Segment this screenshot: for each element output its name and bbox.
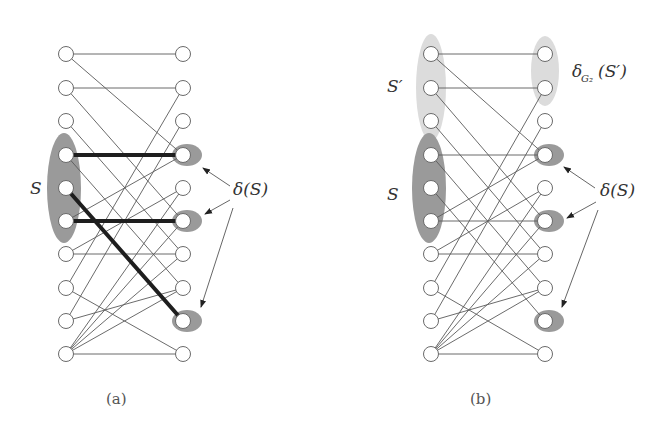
right-vertex	[176, 281, 191, 296]
matching-edge	[66, 188, 183, 321]
right-vertex	[538, 114, 553, 129]
bipartite-graph-figure: S δ(S) (a) S′ δ G₂ (S′) S δ(S) (b)	[0, 0, 663, 444]
left-vertex	[424, 148, 439, 163]
boundary-arrows-a	[201, 168, 233, 307]
set-s-prime-label: S′	[387, 76, 403, 96]
left-vertex	[424, 81, 439, 96]
graph-edge	[431, 54, 545, 155]
graph-edge	[431, 188, 545, 321]
right-vertex	[176, 148, 191, 163]
panel-a-graph	[47, 47, 202, 362]
graph-edge	[66, 54, 183, 155]
left-vertex	[59, 114, 74, 129]
left-vertex	[424, 181, 439, 196]
boundary-label-b: δ(S)	[600, 180, 635, 200]
boundary-arrows-b	[562, 167, 598, 307]
graph-edge	[66, 88, 183, 288]
left-vertex	[59, 181, 74, 196]
right-vertex	[538, 347, 553, 362]
left-vertex	[59, 247, 74, 262]
right-vertex	[538, 314, 553, 329]
right-vertex	[176, 47, 191, 62]
right-vertex	[176, 347, 191, 362]
panel-b-graph	[412, 34, 564, 362]
right-vertex	[538, 47, 553, 62]
left-vertex	[59, 347, 74, 362]
right-vertex	[538, 247, 553, 262]
left-vertex	[424, 247, 439, 262]
right-vertex	[176, 247, 191, 262]
left-vertex	[424, 314, 439, 329]
right-vertex	[538, 281, 553, 296]
left-vertex	[424, 47, 439, 62]
left-vertex	[59, 314, 74, 329]
caption-b: (b)	[470, 390, 491, 408]
graph-edge	[431, 88, 545, 288]
right-vertex	[176, 114, 191, 129]
set-s-label-b: S	[387, 184, 399, 204]
caption-a: (a)	[106, 390, 127, 408]
graph-edge	[431, 221, 545, 354]
delta-g2-s-prime-label: δ G₂ (S′)	[572, 61, 627, 84]
right-vertex	[538, 214, 553, 229]
graph-edge	[66, 221, 183, 354]
svg-text:(S′): (S′)	[598, 61, 627, 81]
graph-edge	[66, 188, 183, 354]
left-vertex	[424, 114, 439, 129]
left-vertex	[424, 281, 439, 296]
right-vertex	[176, 81, 191, 96]
graph-edge	[431, 188, 545, 354]
graph-edge	[431, 88, 545, 221]
graph-edge	[431, 254, 545, 354]
right-vertex	[538, 148, 553, 163]
left-vertex	[59, 47, 74, 62]
left-vertex	[424, 214, 439, 229]
right-vertex	[538, 81, 553, 96]
svg-text:G₂: G₂	[581, 73, 593, 84]
left-vertex	[59, 81, 74, 96]
set-s-label-a: S	[30, 178, 42, 198]
left-vertex	[59, 148, 74, 163]
left-vertex	[424, 347, 439, 362]
right-vertex	[176, 314, 191, 329]
right-vertex	[538, 181, 553, 196]
right-vertex	[176, 181, 191, 196]
boundary-label-a: δ(S)	[233, 179, 268, 199]
right-vertex	[176, 214, 191, 229]
left-vertex	[59, 214, 74, 229]
left-vertex	[59, 281, 74, 296]
